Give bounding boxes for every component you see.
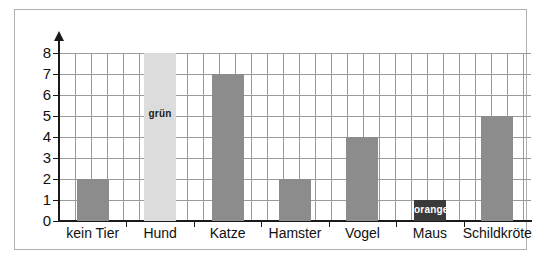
- y-tick-label: 4: [27, 129, 51, 144]
- bar: [77, 179, 109, 221]
- y-tick-mark: [53, 95, 59, 96]
- gridline-vertical: [315, 53, 316, 221]
- y-tick-label: 6: [27, 87, 51, 102]
- y-tick-mark: [53, 158, 59, 159]
- gridline-vertical: [267, 53, 268, 221]
- gridline-vertical: [251, 53, 252, 221]
- y-tick-label: 8: [27, 45, 51, 60]
- bar-annotation-label: grün: [144, 108, 176, 119]
- gridline-vertical: [379, 53, 380, 221]
- gridline-horizontal: [59, 95, 531, 96]
- y-axis-tick-labels: 012345678: [25, 53, 51, 221]
- y-tick-mark: [53, 74, 59, 75]
- y-axis-line: [58, 39, 60, 221]
- y-tick-mark: [53, 200, 59, 201]
- y-tick-label: 5: [27, 108, 51, 123]
- gridline-vertical: [123, 53, 124, 221]
- chart-frame: 012345678 grünorange kein TierHundKatzeH…: [14, 9, 527, 250]
- y-tick-label: 2: [27, 171, 51, 186]
- gridline-vertical: [475, 53, 476, 221]
- y-tick-mark: [53, 137, 59, 138]
- y-axis-arrow-icon: [54, 31, 64, 41]
- y-tick-label: 7: [27, 66, 51, 81]
- gridline-vertical: [331, 53, 332, 221]
- bar: [481, 116, 513, 221]
- gridline-horizontal: [59, 137, 531, 138]
- y-tick-label: 3: [27, 150, 51, 165]
- bar: grün: [144, 53, 176, 221]
- gridline-vertical: [411, 53, 412, 221]
- x-axis-category-labels: kein TierHundKatzeHamsterVogelMausSchild…: [59, 226, 531, 248]
- gridline-vertical: [187, 53, 188, 221]
- bar: orange: [414, 200, 446, 221]
- bar: [346, 137, 378, 221]
- plot-area: 012345678 grünorange: [59, 53, 531, 221]
- gridline-vertical: [443, 53, 444, 221]
- bar: [212, 74, 244, 221]
- x-category-label: Schildkröte: [458, 226, 537, 240]
- gridline-horizontal: [59, 158, 531, 159]
- y-tick-mark: [53, 116, 59, 117]
- y-tick-mark: [53, 53, 59, 54]
- gridline-horizontal: [59, 74, 531, 75]
- gridline-horizontal: [59, 116, 531, 117]
- gridline-vertical: [427, 53, 428, 221]
- bar: [279, 179, 311, 221]
- y-tick-label: 0: [27, 213, 51, 228]
- gridline-vertical: [459, 53, 460, 221]
- gridline-vertical: [139, 53, 140, 221]
- bar-annotation-label: orange: [414, 204, 446, 215]
- gridline-horizontal: [59, 53, 531, 54]
- y-tick-mark: [53, 179, 59, 180]
- gridline-vertical: [523, 53, 524, 221]
- gridline-vertical: [203, 53, 204, 221]
- y-tick-label: 1: [27, 192, 51, 207]
- gridline-vertical: [75, 53, 76, 221]
- y-tick-mark: [53, 221, 59, 222]
- gridline-vertical: [395, 53, 396, 221]
